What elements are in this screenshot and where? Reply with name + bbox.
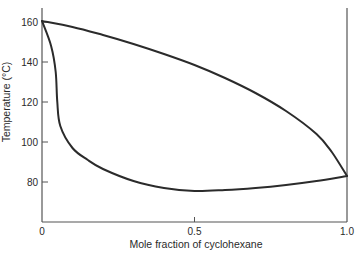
y-tick-label: 160 xyxy=(21,17,38,28)
y-tick-label: 80 xyxy=(27,177,39,188)
x-tick-label: 0 xyxy=(39,226,45,237)
phase-diagram-chart: 8010012014016000.51.0 Mole fraction of c… xyxy=(0,0,364,253)
y-tick-label: 100 xyxy=(21,137,38,148)
x-axis-label: Mole fraction of cyclohexane xyxy=(129,238,262,250)
x-tick-label: 0.5 xyxy=(188,226,202,237)
lower-curve xyxy=(42,21,347,191)
y-axis-label: Temperature (°C) xyxy=(0,62,12,143)
axes: 8010012014016000.51.0 xyxy=(21,8,354,237)
series-layer xyxy=(42,21,347,191)
y-tick-label: 140 xyxy=(21,57,38,68)
upper-curve xyxy=(42,21,347,176)
x-tick-label: 1.0 xyxy=(340,226,354,237)
y-tick-label: 120 xyxy=(21,97,38,108)
